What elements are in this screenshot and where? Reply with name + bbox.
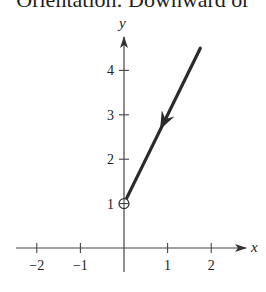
x-tick-label: −2 [29,258,44,273]
x-axis-label: x [250,239,258,255]
x-tick-label: −1 [73,258,88,273]
y-tick-label: 4 [107,63,114,78]
axes [16,37,246,272]
x-tick-label: 1 [164,258,171,273]
endpoint-marker-icon [119,199,129,209]
y-tick-label: 3 [107,108,114,123]
plot-area: −2−1121234 x y [0,0,266,292]
series-layer [119,48,200,208]
x-tick-label: 2 [208,258,215,273]
y-tick-label: 2 [107,152,114,167]
y-axis-label: y [117,15,126,31]
y-tick-label: 1 [107,197,114,212]
ticks: −2−1121234 [29,63,214,273]
